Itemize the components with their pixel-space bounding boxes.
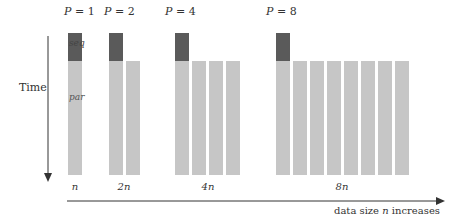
par-bar bbox=[209, 61, 223, 175]
seq-label: seq bbox=[69, 38, 85, 48]
par-bar bbox=[293, 61, 307, 175]
group-label-p1: P = 1 bbox=[64, 5, 95, 18]
par-bar bbox=[395, 61, 409, 175]
seq-bar bbox=[276, 33, 290, 61]
par-bar bbox=[361, 61, 375, 175]
seq-bar bbox=[109, 33, 123, 61]
x-axis-caption: data size n increases bbox=[334, 205, 440, 216]
group-label-p4: P = 4 bbox=[165, 5, 196, 18]
par-bar bbox=[226, 61, 240, 175]
par-bar bbox=[310, 61, 324, 175]
time-arrow-icon bbox=[42, 35, 54, 185]
x-label-8n: 8n bbox=[322, 181, 362, 192]
x-label-2n: 2n bbox=[104, 181, 144, 192]
par-bar bbox=[126, 61, 140, 175]
seq-bar bbox=[175, 33, 189, 61]
x-label-4n: 4n bbox=[188, 181, 228, 192]
x-label-n: n bbox=[55, 181, 95, 192]
par-bar bbox=[68, 61, 82, 175]
par-bar bbox=[109, 61, 123, 175]
par-bar bbox=[327, 61, 341, 175]
par-bar bbox=[276, 61, 290, 175]
par-label: par bbox=[69, 92, 84, 102]
par-bar bbox=[192, 61, 206, 175]
group-label-p8: P = 8 bbox=[266, 5, 297, 18]
group-label-p2: P = 2 bbox=[104, 5, 135, 18]
par-bar bbox=[378, 61, 392, 175]
par-bar bbox=[344, 61, 358, 175]
par-bar bbox=[175, 61, 189, 175]
